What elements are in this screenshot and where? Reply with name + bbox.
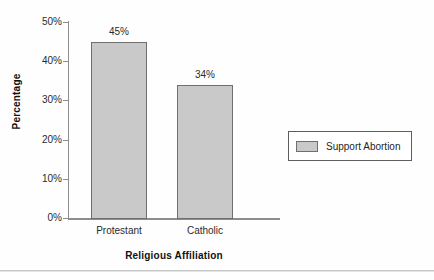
x-tick-label-catholic: Catholic [170,225,240,236]
y-tick-label-40: 40% [28,56,62,66]
bar-catholic[interactable] [177,85,233,219]
y-tick-label-30: 30% [28,95,62,105]
y-tick-10: 10% [24,174,62,184]
x-tick-label-protestant: Protestant [81,225,157,236]
y-tick-0: 0% [24,213,62,223]
legend-swatch-support-abortion [296,141,318,152]
y-tick-label-50: 50% [28,17,62,27]
chart-legend[interactable]: Support Abortion [288,131,412,161]
y-tick-30: 30% [24,95,62,105]
y-tick-40: 40% [24,56,62,66]
chart-page: Percentage 50% 40% 30% 20% 10% 0% [0,0,434,280]
bar-chart: Percentage 50% 40% 30% 20% 10% 0% [0,0,434,280]
page-rule-shadow [0,271,434,272]
legend-label-support-abortion: Support Abortion [326,141,401,152]
y-tick-50: 50% [24,17,62,27]
y-tick-label-0: 0% [28,213,62,223]
y-tick-label-20: 20% [28,135,62,145]
bar-value-catholic: 34% [177,70,233,80]
y-axis-title: Percentage [11,62,22,142]
y-tick-label-10: 10% [28,174,62,184]
x-axis-title: Religious Affiliation [68,250,280,261]
y-tick-20: 20% [24,135,62,145]
bar-protestant[interactable] [91,42,147,219]
y-axis-line [68,21,69,219]
bar-value-protestant: 45% [91,27,147,37]
